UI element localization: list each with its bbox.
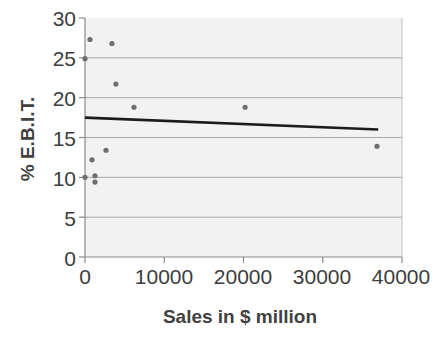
data-point bbox=[89, 157, 94, 162]
x-tick-marks bbox=[85, 257, 402, 263]
scatter-chart: % E.B.I.T. 30 25 20 15 10 5 0 0 10000 20… bbox=[0, 0, 444, 344]
data-point bbox=[242, 105, 247, 110]
data-point bbox=[87, 37, 92, 42]
data-point bbox=[374, 144, 379, 149]
data-point bbox=[82, 175, 87, 180]
data-point bbox=[92, 173, 97, 178]
data-point bbox=[109, 41, 114, 46]
data-point bbox=[131, 105, 136, 110]
y-tick-marks bbox=[79, 18, 85, 257]
data-point bbox=[103, 148, 108, 153]
plot-area bbox=[0, 0, 444, 344]
data-point bbox=[92, 180, 97, 185]
data-point bbox=[113, 82, 118, 87]
data-point bbox=[82, 56, 87, 61]
